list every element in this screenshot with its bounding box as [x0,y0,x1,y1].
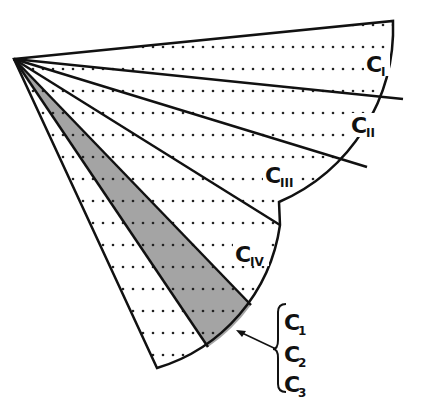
callout-label-c1: C 1 [284,310,306,338]
label-c-i: C I [364,52,390,79]
svg-text:C: C [265,163,281,188]
callout-label-c3: C 3 [284,372,306,400]
diagram-canvas: C I C II C III C IV C 1 C 2 C 3 [0,0,421,405]
svg-text:IV: IV [250,255,264,269]
svg-text:C: C [351,113,367,138]
svg-text:C: C [366,52,382,77]
label-c-ii: C II [349,113,379,140]
svg-text:III: III [280,176,293,190]
svg-text:2: 2 [298,356,306,370]
callout-label-c2: C 2 [284,342,306,370]
label-c-iv: C IV [233,242,269,269]
svg-text:I: I [381,65,385,79]
callout-arrow [236,330,276,349]
label-c-iii: C III [263,163,301,190]
svg-text:II: II [366,126,375,140]
fan-diagram: C I C II C III C IV C 1 C 2 C 3 [0,0,421,405]
svg-text:C: C [235,242,251,267]
svg-text:3: 3 [298,386,306,400]
svg-text:1: 1 [298,324,306,338]
